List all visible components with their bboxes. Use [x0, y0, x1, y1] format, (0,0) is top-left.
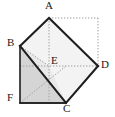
vertex-label-E: E — [51, 55, 58, 66]
vertex-label-C: C — [63, 103, 70, 114]
vertex-label-D: D — [101, 59, 109, 70]
vertex-label-A: A — [45, 0, 53, 11]
vertex-label-B: B — [7, 37, 14, 48]
geometry-figure: A B E D F C — [0, 0, 115, 117]
vertex-label-F: F — [7, 92, 13, 103]
